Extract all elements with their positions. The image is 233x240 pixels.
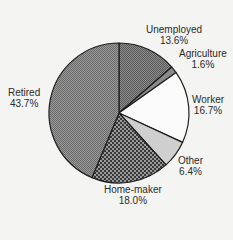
label-retired-pct: 43.7%	[8, 98, 40, 109]
label-agriculture-name: Agriculture	[179, 48, 227, 59]
label-retired: Retired 43.7%	[8, 87, 40, 109]
label-other-pct: 6.4%	[178, 166, 203, 177]
label-worker-pct: 16.7%	[192, 105, 224, 116]
label-other: Other 6.4%	[178, 155, 203, 177]
label-unemployed-name: Unemployed	[146, 24, 202, 35]
label-homemaker: Home-maker 18.0%	[104, 184, 162, 206]
label-unemployed: Unemployed 13.6%	[146, 24, 202, 46]
label-agriculture-pct: 1.6%	[179, 59, 227, 70]
label-homemaker-name: Home-maker	[104, 184, 162, 195]
label-retired-name: Retired	[8, 87, 40, 98]
label-other-name: Other	[178, 155, 203, 166]
label-agriculture: Agriculture 1.6%	[179, 48, 227, 70]
label-worker-name: Worker	[192, 94, 224, 105]
label-homemaker-pct: 18.0%	[104, 195, 162, 206]
label-unemployed-pct: 13.6%	[146, 35, 202, 46]
label-worker: Worker 16.7%	[192, 94, 224, 116]
